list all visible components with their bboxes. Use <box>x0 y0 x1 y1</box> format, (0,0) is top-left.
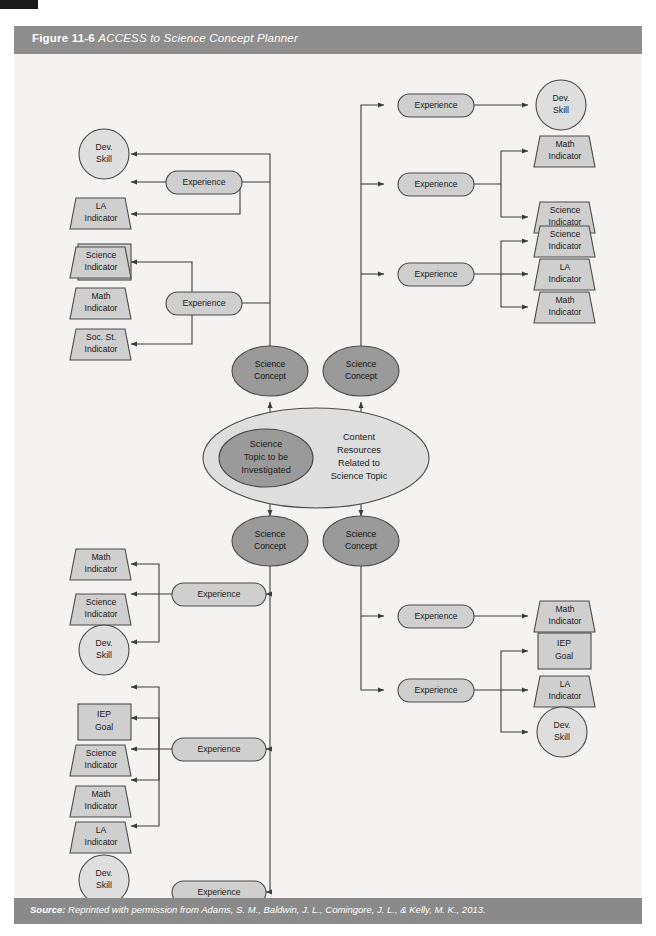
concept-label-line1: Science <box>255 359 286 369</box>
node-br-la-indicator[interactable]: LA Indicator <box>534 676 595 707</box>
figure-number: Figure 11-6 <box>32 32 95 44</box>
center-outer-label-line1: Content <box>343 432 376 442</box>
node-bl-math-indicator-2[interactable]: Math Indicator <box>70 786 131 817</box>
figure-title: Figure 11-6 ACCESS to Science Concept Pl… <box>32 32 298 44</box>
node-label-line1: LA <box>560 679 571 689</box>
node-exp-bl-2[interactable]: Experience <box>172 738 266 761</box>
connectors-bottom-left <box>131 564 270 892</box>
node-bl-dev-skill-2[interactable]: Dev. Skill <box>79 855 129 898</box>
center-inner-label-line2: Topic to be <box>244 452 288 462</box>
node-label-line1: Dev. <box>553 720 570 730</box>
experience-label: Experience <box>183 298 226 308</box>
node-label-line2: Indicator <box>85 213 118 223</box>
node-tr-math-indicator[interactable]: Math Indicator <box>534 136 595 167</box>
concept-label-line1: Science <box>346 529 377 539</box>
node-label-line2: Skill <box>96 650 112 660</box>
page-corner-mark <box>0 0 38 9</box>
node-bl-iep-goal[interactable]: IEP Goal <box>78 704 131 740</box>
experience-label: Experience <box>183 177 226 187</box>
node-concept-top-right[interactable]: Science Concept <box>323 346 399 396</box>
node-label-line2: Indicator <box>85 564 118 574</box>
center-outer-label-line2: Resources <box>337 445 381 455</box>
node-bl-science-indicator-2[interactable]: Science Indicator <box>70 745 131 776</box>
node-bl-science-indicator[interactable]: Science Indicator <box>70 594 131 625</box>
figure-title-bar: Figure 11-6 ACCESS to Science Concept Pl… <box>14 26 642 54</box>
node-bl-math-indicator[interactable]: Math Indicator <box>70 549 131 580</box>
node-concept-bottom-left[interactable]: Science Concept <box>232 516 308 566</box>
node-exp-tr-2[interactable]: Experience <box>398 173 474 196</box>
node-label-line1: LA <box>96 201 107 211</box>
node-tr-math-indicator-2[interactable]: Math Indicator <box>534 292 595 323</box>
node-br-math-indicator[interactable]: Math Indicator <box>534 601 595 632</box>
node-label-line1: Math <box>555 295 574 305</box>
node-label-line2: Goal <box>95 722 113 732</box>
center-inner-label-line3: Investigated <box>241 465 291 475</box>
node-label-line1: Dev. <box>95 638 112 648</box>
node-label-line1: Soc. St. <box>86 332 116 342</box>
node-exp-tr-1[interactable]: Experience <box>398 94 474 117</box>
node-label-line1: Dev. <box>552 93 569 103</box>
node-label-line1: Dev. <box>95 142 112 152</box>
node-concept-bottom-right[interactable]: Science Concept <box>323 516 399 566</box>
node-tl-dev-skill[interactable]: Dev. Skill <box>79 129 129 179</box>
node-label-line2: Indicator <box>549 691 582 701</box>
figure-page: Figure 11-6 ACCESS to Science Concept Pl… <box>0 0 656 936</box>
node-exp-br-2[interactable]: Experience <box>398 679 474 702</box>
concept-label-line2: Concept <box>254 371 287 381</box>
source-label: Source: <box>30 904 65 915</box>
node-label-line2: Indicator <box>85 837 118 847</box>
experience-label: Experience <box>198 744 241 754</box>
node-label-line1: LA <box>560 262 571 272</box>
connectors-top-right <box>361 105 528 366</box>
node-label-line1: Dev. <box>95 868 112 878</box>
experience-label: Experience <box>415 269 458 279</box>
node-label-line2: Goal <box>555 651 573 661</box>
node-tr-science-indicator-2[interactable]: Science Indicator <box>534 226 595 257</box>
node-bl-dev-skill[interactable]: Dev. Skill <box>79 625 129 675</box>
node-label-line2: Indicator <box>85 609 118 619</box>
node-label-line1: Math <box>555 604 574 614</box>
node-label-line1: IEP <box>97 709 111 719</box>
node-tr-la-indicator[interactable]: LA Indicator <box>534 259 595 290</box>
node-label-line2: Indicator <box>85 801 118 811</box>
node-bl-la-indicator[interactable]: LA Indicator <box>70 822 131 853</box>
node-exp-br-1[interactable]: Experience <box>398 605 474 628</box>
experience-label: Experience <box>415 685 458 695</box>
node-label-line2: Indicator <box>549 151 582 161</box>
node-label-line1: LA <box>96 825 107 835</box>
node-exp-tr-3[interactable]: Experience <box>398 263 474 286</box>
node-label-line2: Indicator <box>549 241 582 251</box>
node-exp-tl-2[interactable]: Experience <box>166 292 242 315</box>
center-inner-ellipse[interactable]: Science Topic to be Investigated <box>219 429 313 487</box>
concept-planner-diagram: Dev. Skill LA Indicator IEP Goal Science… <box>14 54 642 898</box>
node-tl-socst-indicator[interactable]: Soc. St. Indicator <box>70 329 131 360</box>
node-label-line1: Math <box>555 139 574 149</box>
center-inner-label-line1: Science <box>250 439 283 449</box>
node-exp-bl-1[interactable]: Experience <box>172 583 266 606</box>
node-tl-la-indicator[interactable]: LA Indicator <box>70 198 131 229</box>
node-exp-tl-1[interactable]: Experience <box>166 171 242 194</box>
node-tr-dev-skill[interactable]: Dev. Skill <box>536 80 586 130</box>
node-tl-science-indicator[interactable]: Science Indicator <box>70 247 131 278</box>
node-label-line1: IEP <box>557 638 571 648</box>
node-label-line2: Indicator <box>549 307 582 317</box>
diagram-canvas: Dev. Skill LA Indicator IEP Goal Science… <box>14 54 642 898</box>
figure-container: Figure 11-6 ACCESS to Science Concept Pl… <box>14 26 642 924</box>
experience-label: Experience <box>415 611 458 621</box>
node-br-dev-skill[interactable]: Dev. Skill <box>537 707 587 757</box>
node-tl-math-indicator[interactable]: Math Indicator <box>70 288 131 319</box>
node-concept-top-left[interactable]: Science Concept <box>232 346 308 396</box>
node-exp-bl-3[interactable]: Experience <box>172 881 266 898</box>
figure-source-bar: Source: Reprinted with permission from A… <box>14 898 642 924</box>
node-label-line1: Science <box>86 597 117 607</box>
node-label-line2: Skill <box>553 105 569 115</box>
node-label-line1: Math <box>91 789 110 799</box>
figure-name: ACCESS to Science Concept Planner <box>98 32 298 44</box>
concept-label-line1: Science <box>346 359 377 369</box>
node-label-line2: Indicator <box>85 344 118 354</box>
concept-label-line1: Science <box>255 529 286 539</box>
node-label-line2: Indicator <box>85 303 118 313</box>
experience-label: Experience <box>415 179 458 189</box>
node-br-iep-goal[interactable]: IEP Goal <box>538 633 591 669</box>
node-label-line2: Skill <box>96 880 112 890</box>
